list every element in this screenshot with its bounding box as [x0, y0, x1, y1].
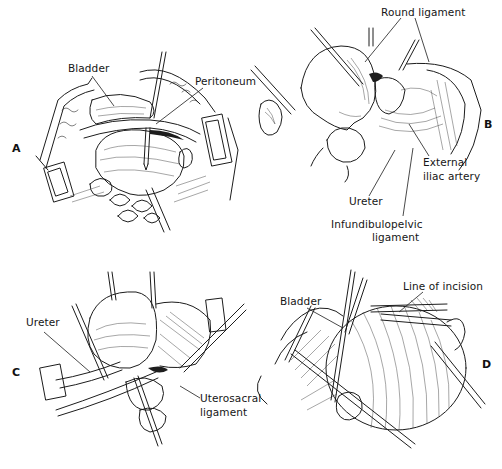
panel-c-leaders	[0, 260, 251, 469]
panel-a-leaders	[0, 0, 251, 235]
panel-d-leaders	[251, 260, 502, 469]
panel-d: Bladder Line of incision D	[251, 260, 502, 469]
panel-a: A Bladder Peritoneum	[0, 0, 251, 235]
panel-b: Round ligament B External iliac artery U…	[251, 0, 502, 260]
panel-b-leaders	[251, 0, 502, 260]
surgical-illustration-figure: A Bladder Peritoneum	[0, 0, 502, 469]
panel-c: Ureter C Uterosacral ligament	[0, 260, 251, 469]
